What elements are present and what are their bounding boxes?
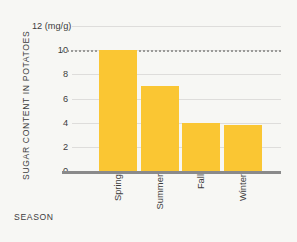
- plot-area: [72, 26, 281, 171]
- x-tick-label: Summer: [153, 174, 167, 230]
- bar: [99, 50, 137, 171]
- y-tick-label: 6: [34, 94, 68, 104]
- x-axis-title: SEASON: [14, 212, 54, 222]
- y-tick-label: 2: [34, 142, 68, 152]
- x-axis-tick-labels: SpringSummerFallWinter: [72, 174, 281, 230]
- x-tick-label: Spring: [111, 174, 125, 230]
- bar: [141, 86, 179, 171]
- bar-series: [72, 26, 281, 171]
- bar: [182, 123, 220, 171]
- bar: [224, 125, 262, 171]
- y-tick-label: 8: [34, 69, 68, 79]
- y-axis-tick-labels: 1086420: [32, 26, 68, 171]
- y-tick-label: 4: [34, 118, 68, 128]
- x-tick-label: Winter: [236, 174, 250, 230]
- bar-chart: SUGAR CONTENT IN POTATOES 12 (mg/g) 1086…: [0, 0, 297, 242]
- x-tick-label: Fall: [194, 174, 208, 230]
